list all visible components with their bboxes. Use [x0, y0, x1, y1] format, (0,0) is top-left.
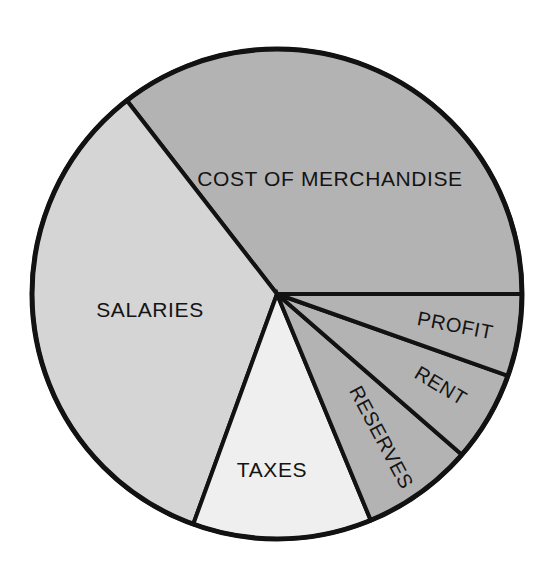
pie-slice-label-cost-of-merchandise: COST OF MERCHANDISE — [197, 167, 462, 190]
pie-chart-figure: COST OF MERCHANDISESALARIESTAXESRESERVES… — [0, 0, 546, 588]
pie-slice-label-salaries: SALARIES — [96, 298, 204, 321]
pie-slice-label-taxes: TAXES — [237, 458, 307, 481]
pie-chart-svg: COST OF MERCHANDISESALARIESTAXESRESERVES… — [0, 0, 546, 588]
